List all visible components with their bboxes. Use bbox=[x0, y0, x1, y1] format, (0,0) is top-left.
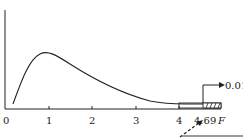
tail-area-arrow bbox=[203, 85, 219, 103]
bottom-strip bbox=[182, 135, 243, 137]
tick-label-2: 2 bbox=[89, 115, 95, 126]
tick-label-0: 0 bbox=[3, 115, 9, 126]
f-distribution-chart: 0.01 0 1 2 3 4 4.69 F bbox=[0, 0, 243, 140]
tick-label-3: 3 bbox=[133, 115, 139, 126]
tail-area-label: 0.01 bbox=[225, 80, 243, 91]
tick-label-1: 1 bbox=[46, 115, 52, 126]
tick-label-4: 4 bbox=[176, 115, 182, 126]
dashed-pointer bbox=[180, 123, 199, 137]
density-curve bbox=[13, 53, 221, 104]
x-axis-label: F bbox=[217, 115, 226, 126]
